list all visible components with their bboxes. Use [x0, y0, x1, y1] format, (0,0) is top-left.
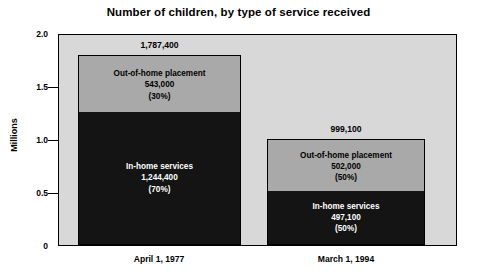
bar-1994-in-home-segment: In-home services 497,100 (50%) — [268, 191, 424, 244]
bar-1977[interactable]: Out-of-home placement 543,000 (30%) In-h… — [78, 55, 241, 245]
segment-name: Out-of-home placement — [300, 150, 392, 161]
segment-name: Out-of-home placement — [114, 68, 206, 79]
x-axis-label-1977: April 1, 1977 — [134, 254, 185, 264]
segment-value: 497,100 — [331, 212, 361, 223]
y-tick-label-05: 0.5 — [36, 188, 48, 198]
chart-title: Number of children, by type of service r… — [0, 6, 477, 18]
bar-1994-total-label: 999,100 — [267, 124, 425, 134]
segment-percent: (50%) — [335, 172, 357, 183]
chart-container: Number of children, by type of service r… — [0, 0, 477, 277]
y-tick-label-2: 2.0 — [36, 29, 48, 39]
y-axis: 2.0 1.5 1.0 0.5 0 — [0, 0, 60, 277]
segment-name: In-home services — [126, 161, 193, 172]
bar-1994-out-of-home-segment: Out-of-home placement 502,000 (50%) — [268, 140, 424, 193]
bar-1977-in-home-segment: In-home services 1,244,400 (70%) — [79, 112, 240, 244]
segment-value: 502,000 — [331, 161, 361, 172]
segment-value: 1,244,400 — [141, 172, 177, 183]
segment-percent: (70%) — [149, 184, 171, 195]
bar-1977-total-label: 1,787,400 — [78, 40, 241, 50]
segment-value: 543,000 — [145, 79, 175, 90]
x-axis-label-1994: March 1, 1994 — [318, 254, 374, 264]
y-tick-label-15: 1.5 — [36, 82, 48, 92]
y-tick-label-10: 1.0 — [36, 135, 48, 145]
bar-1994[interactable]: Out-of-home placement 502,000 (50%) In-h… — [267, 139, 425, 245]
y-tick-label-0: 0 — [43, 241, 48, 251]
plot-area: Out-of-home placement 543,000 (30%) In-h… — [58, 34, 457, 246]
segment-name: In-home services — [313, 201, 380, 212]
bar-1977-out-of-home-segment: Out-of-home placement 543,000 (30%) — [79, 56, 240, 114]
segment-percent: (30%) — [149, 91, 171, 102]
segment-percent: (50%) — [335, 223, 357, 234]
